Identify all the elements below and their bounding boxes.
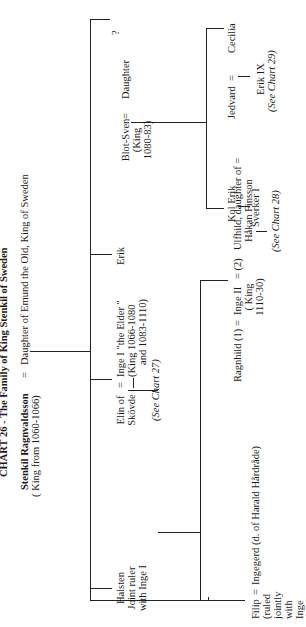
gen3-connector [158,532,200,533]
inge1-child-tick [133,378,134,388]
genealogy-chart-page: CHART 26 - The Family of King Stenkil of… [0,0,306,627]
gen1-descent-line [30,351,90,352]
daughter-name: Daughter [120,60,131,99]
daughter-descent-line [131,122,206,123]
gen1-equals: = [19,372,30,378]
chart-title: CHART 26 - The Family of King Stenkil of… [0,248,9,477]
jedvard-drop [206,28,224,29]
ragnhild: Ragnhild (1) = [232,320,243,382]
erik-drop [90,254,112,255]
inge1-name: Inge I "the Elder " [115,300,126,377]
inge2-name: Inge II [232,287,243,315]
inge2-note: ( King 1110-30) [243,277,265,317]
inge1-note2: and 1083-1110) [137,299,148,365]
ulfhild-sverker-descent [256,231,267,232]
inge1-equals: = [115,382,126,388]
gen3-sibling-bar [200,281,201,601]
inge1-descent-line [128,390,158,391]
filip-note: (ruled jointly with Inge II) [261,589,306,619]
kol-erik-drop [206,208,224,209]
filip-drop [200,600,245,601]
sverker-name: Sverker I [250,188,261,227]
erik-name: Erik [115,247,126,265]
filip-spouse: Ingegerd (d. of Harald Hårdråde) [250,446,261,585]
kol-erik-descent [238,206,250,207]
filip-equals: = [250,589,261,595]
stenkil-name: Stenkil Ragnvaldsson [19,393,30,490]
inge1-drop [90,379,112,380]
filip-name: Filip [250,599,261,619]
erik9-name: Erik IX [255,63,266,95]
cecilia-name: Cecilia [226,23,237,53]
stenkil-wife: Daughter of Emund the Old, King of Swede… [19,174,30,365]
jedvard-descent [238,76,250,77]
daughter-question: ? [110,30,121,35]
blot-sven: Blot-Sven (King 1080-83) [120,118,153,162]
inge2-drop [200,280,228,281]
gen3b-sibling-bar [206,29,207,209]
erik9-ref: (See Chart 29) [266,50,277,112]
jedvard-name: Jedvard [226,86,237,119]
inge1-spouse: Elin of Skövde [115,388,137,432]
jedvard-equals: = [226,75,237,81]
inge1-note1: (King 1066-1080 [126,304,137,377]
inge2-equals2: = (2) [232,258,243,279]
kol-erik-name: Kol Erik [226,186,237,222]
sverker-ref: (See Chart 28) [270,190,281,252]
halsten-drop [90,588,112,589]
gen2-sibling-bar [90,20,91,601]
halsten-to-gen3-line [90,600,208,601]
halsten-name: Halsten Joint ruler with Inge I [115,563,148,613]
daughter-drop [90,19,110,20]
stenkil-note: ( King from 1060-1066) [30,395,41,497]
